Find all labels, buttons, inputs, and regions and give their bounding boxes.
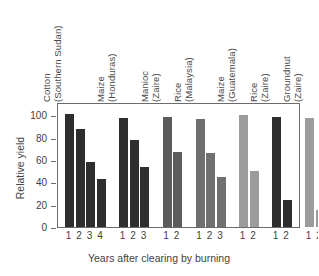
bar — [217, 177, 226, 227]
y-tick-label: 100 — [30, 111, 47, 121]
bar — [65, 114, 74, 227]
bar — [76, 129, 85, 227]
x-tick-label: 1 — [66, 230, 72, 242]
crop-name: Cotton — [42, 25, 53, 102]
crop-group-label: Manioc(Zaire) — [140, 71, 161, 102]
crop-group-label: Maize(Guatemala) — [216, 48, 237, 102]
x-tick-label: 2 — [76, 230, 82, 242]
x-tick-label: 2 — [250, 230, 256, 242]
x-axis-title: Years after clearing by burning — [0, 252, 318, 264]
crop-name: Maize — [216, 48, 227, 102]
crop-group-label: Rice(Malaysia) — [173, 57, 194, 102]
bar — [196, 119, 205, 227]
bar — [272, 117, 281, 228]
bar — [239, 115, 248, 227]
bar — [130, 140, 139, 227]
bar — [316, 210, 319, 227]
bar — [206, 153, 215, 227]
y-tick-label: 60 — [36, 156, 47, 166]
x-tick-label: 2 — [130, 230, 136, 242]
y-axis-title: Relative yield — [14, 118, 26, 218]
crop-group-labels: Cotton(Southern Sudan)Maize(Honduras)Man… — [0, 0, 318, 104]
bar — [86, 162, 95, 227]
x-tick-label: 1 — [120, 230, 126, 242]
y-tick-label: 40 — [36, 178, 47, 188]
crop-place: (Malaysia) — [183, 57, 194, 102]
crop-place: (Zaire) — [293, 56, 304, 102]
plot-area — [57, 103, 300, 228]
crop-name: Groundnut — [282, 56, 293, 102]
crop-group-label: Rice(Zaire) — [249, 73, 270, 102]
bar — [305, 118, 314, 227]
y-axis: Relative yield 020406080100 — [0, 100, 57, 235]
y-tick-mark — [51, 161, 56, 162]
crop-place: (Zaire) — [260, 73, 271, 102]
x-tick-label: 4 — [97, 230, 103, 242]
bar — [173, 152, 182, 227]
crop-group-label: Groundnut(Zaire) — [282, 56, 303, 102]
bar — [163, 117, 172, 228]
x-tick-label: 3 — [217, 230, 223, 242]
crop-name: Maize — [96, 53, 107, 102]
bar — [283, 200, 292, 227]
y-tick-mark — [51, 206, 56, 207]
crop-group-label: Maize(Honduras) — [96, 53, 117, 102]
x-tick-label: 1 — [273, 230, 279, 242]
y-tick-label: 0 — [41, 223, 47, 233]
x-tick-label: 2 — [207, 230, 213, 242]
crop-name: Manioc — [140, 71, 151, 102]
x-tick-labels: 123412312123121212 — [57, 230, 300, 244]
crop-place: (Southern Sudan) — [53, 25, 64, 102]
x-tick-label: 2 — [174, 230, 180, 242]
x-tick-label: 1 — [240, 230, 246, 242]
crop-place: (Zaire) — [150, 71, 161, 102]
y-tick-mark — [51, 116, 56, 117]
y-tick-mark — [51, 228, 56, 229]
x-tick-label: 3 — [141, 230, 147, 242]
crop-name: Rice — [249, 73, 260, 102]
y-tick-label: 20 — [36, 201, 47, 211]
bar — [140, 167, 149, 227]
chart-figure: Cotton(Southern Sudan)Maize(Honduras)Man… — [0, 0, 318, 276]
crop-place: (Honduras) — [107, 53, 118, 102]
crop-place: (Guatemala) — [227, 48, 238, 102]
bar — [119, 118, 128, 227]
x-tick-label: 1 — [196, 230, 202, 242]
bar — [250, 171, 259, 227]
bars-container — [58, 104, 299, 227]
bar — [97, 179, 106, 227]
x-tick-label: 3 — [87, 230, 93, 242]
x-tick-label: 1 — [163, 230, 169, 242]
crop-name: Rice — [173, 57, 184, 102]
y-tick-mark — [51, 183, 56, 184]
y-tick-label: 80 — [36, 134, 47, 144]
x-tick-label: 2 — [316, 230, 318, 242]
y-tick-mark — [51, 139, 56, 140]
x-tick-label: 1 — [306, 230, 312, 242]
x-tick-label: 2 — [283, 230, 289, 242]
crop-group-label: Cotton(Southern Sudan) — [42, 25, 63, 102]
